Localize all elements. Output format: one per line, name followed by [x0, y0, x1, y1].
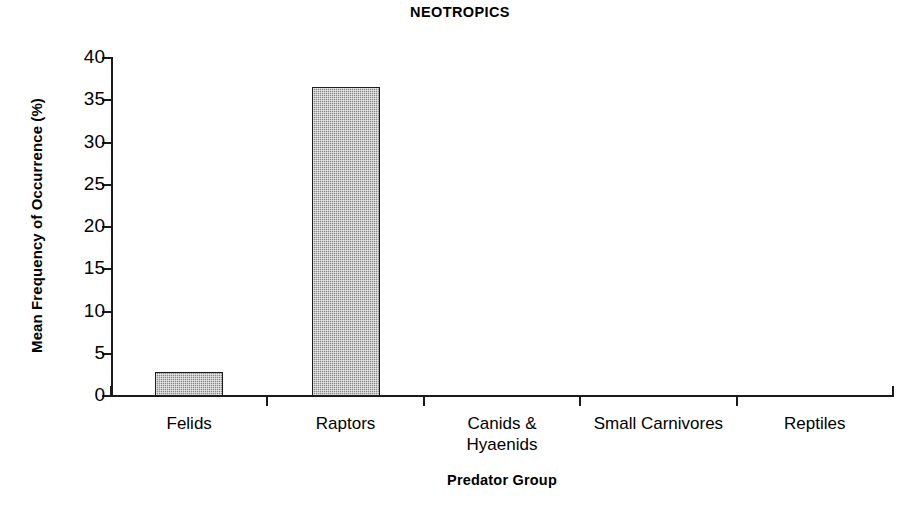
x-axis-tick-mark	[423, 396, 425, 406]
x-axis-category-label: Felids	[167, 413, 212, 434]
x-axis-title: Predator Group	[111, 472, 893, 488]
y-axis-tick-label: 5	[94, 343, 105, 363]
x-axis-end-cap	[892, 386, 894, 396]
x-axis-tick-mark	[579, 396, 581, 406]
y-axis-tick-label: 30	[84, 132, 105, 152]
x-axis-category-label: Reptiles	[784, 413, 845, 434]
y-axis-title: Mean Frequency of Occurrence (%)	[28, 56, 45, 396]
bar	[312, 87, 380, 396]
y-axis-tick-label: 0	[94, 385, 105, 405]
y-axis-tick-label: 25	[84, 174, 105, 194]
x-axis-category-label: Raptors	[316, 413, 376, 434]
x-axis-category-label: Small Carnivores	[594, 413, 723, 434]
x-axis-tick-mark	[266, 396, 268, 406]
chart-figure: NEOTROPICS Mean Frequency of Occurrence …	[0, 0, 920, 515]
x-axis-tick-mark	[736, 396, 738, 406]
bar	[155, 372, 223, 396]
y-axis-tick-label: 40	[84, 47, 105, 67]
y-axis-tick-label: 20	[84, 216, 105, 236]
y-axis-tick-label: 15	[84, 258, 105, 278]
y-axis-tick-label: 10	[84, 301, 105, 321]
y-axis-tick-label: 35	[84, 89, 105, 109]
plot-area: 0510152025303540 FelidsRaptorsCanids & H…	[111, 58, 893, 396]
x-axis-category-label: Canids & Hyaenids	[467, 413, 538, 455]
chart-title: NEOTROPICS	[0, 4, 920, 20]
x-axis-end-cap	[110, 386, 112, 396]
